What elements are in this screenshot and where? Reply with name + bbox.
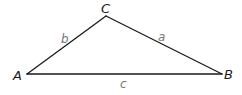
side-label-a: a xyxy=(158,30,165,44)
side-a-line xyxy=(106,16,222,74)
side-label-b: b xyxy=(61,32,69,46)
vertex-label-b: B xyxy=(224,67,233,82)
side-label-c: c xyxy=(120,77,127,91)
vertex-label-a: A xyxy=(12,68,22,83)
triangle-diagram: C A B b a c xyxy=(0,0,242,95)
triangle-edges xyxy=(27,16,222,74)
vertex-label-c: C xyxy=(101,1,111,16)
